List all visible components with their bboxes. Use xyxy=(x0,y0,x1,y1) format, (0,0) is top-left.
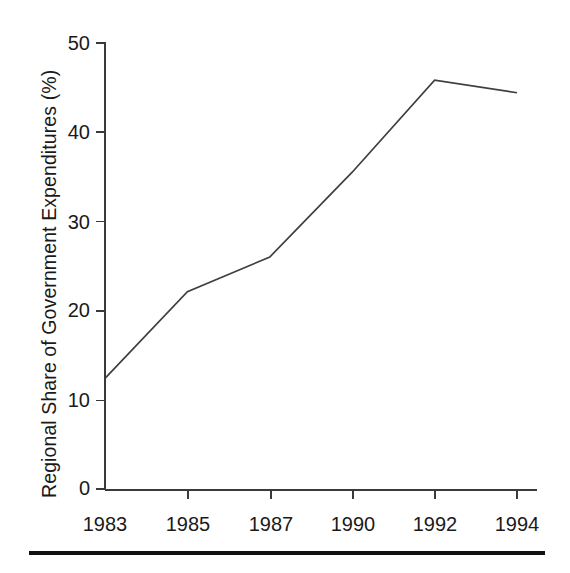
data-series-line xyxy=(105,80,517,378)
chart-figure: Regional Share of Government Expenditure… xyxy=(0,0,570,573)
plot-area xyxy=(0,0,570,573)
